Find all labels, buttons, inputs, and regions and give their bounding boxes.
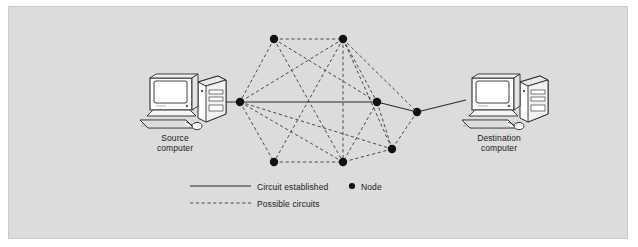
legend-circuit-established-label: Circuit established — [257, 182, 328, 192]
network-node — [339, 158, 347, 166]
network-node — [413, 108, 421, 116]
network-node — [388, 145, 396, 153]
source-label-line2: computer — [132, 143, 218, 153]
possible-circuit-edge — [240, 102, 392, 149]
possible-circuit-edge — [274, 39, 343, 162]
possible-circuit-edge — [343, 102, 377, 162]
source-computer-icon — [140, 74, 226, 130]
legend-possible-circuits-label: Possible circuits — [257, 199, 320, 209]
possible-circuit-edge — [240, 39, 274, 102]
circuit-established-segment — [417, 100, 466, 112]
network-diagram — [0, 0, 638, 247]
destination-computer-label: Destination computer — [449, 133, 549, 153]
possible-circuits-layer — [240, 39, 417, 162]
network-node — [373, 98, 381, 106]
legend-node-dot — [349, 183, 355, 189]
legend-node-label: Node — [361, 182, 382, 192]
possible-circuit-edge — [343, 39, 392, 149]
destination-computer-icon — [462, 74, 548, 130]
network-node — [270, 35, 278, 43]
circuit-established-segment — [377, 102, 417, 112]
destination-label-line1: Destination — [449, 133, 549, 143]
possible-circuit-edge — [377, 102, 392, 149]
possible-circuit-edge — [240, 39, 343, 102]
source-label-line1: Source — [132, 133, 218, 143]
network-node — [270, 158, 278, 166]
destination-label-line2: computer — [449, 143, 549, 153]
possible-circuit-edge — [343, 149, 392, 162]
possible-circuit-edge — [343, 39, 377, 102]
possible-circuit-edge — [392, 112, 417, 149]
network-node — [339, 35, 347, 43]
possible-circuit-edge — [240, 102, 343, 162]
network-node — [236, 98, 244, 106]
nodes-layer — [236, 35, 421, 166]
source-computer-label: Source computer — [132, 133, 218, 153]
